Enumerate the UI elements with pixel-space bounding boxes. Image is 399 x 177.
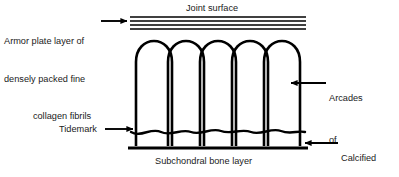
diagram-canvas: Armor plate layer of densely packed fine… — [0, 0, 399, 177]
cartilage-schematic-svg — [0, 0, 399, 177]
armor-plate-layer-group — [130, 17, 306, 29]
tidemark-wavy-line — [131, 130, 305, 134]
